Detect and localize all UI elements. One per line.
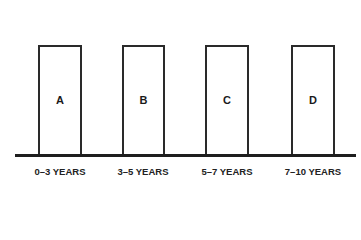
bar-b-label: B [124, 94, 163, 106]
bar-a-label: A [40, 94, 80, 106]
category-label-5-7: 5–7 YEARS [182, 166, 272, 177]
bar-d-label: D [293, 94, 333, 106]
bar-a: A [38, 45, 82, 155]
x-axis-baseline [15, 154, 356, 157]
category-label-0-3: 0–3 YEARS [15, 166, 105, 177]
bar-d: D [291, 45, 335, 155]
bar-b: B [122, 45, 165, 155]
bar-c: C [205, 45, 249, 155]
category-label-3-5: 3–5 YEARS [98, 166, 188, 177]
bar-c-label: C [207, 94, 247, 106]
category-label-7-10: 7–10 YEARS [268, 166, 358, 177]
